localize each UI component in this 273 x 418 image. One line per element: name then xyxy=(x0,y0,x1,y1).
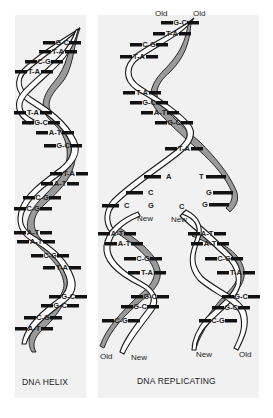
base-pair-label: G-C xyxy=(56,141,70,150)
base-pair-bar xyxy=(23,196,35,200)
base-pair-label: T-A xyxy=(63,169,76,178)
base-pair: A-T xyxy=(17,237,55,246)
base-pair-bar xyxy=(156,43,168,47)
base-pair-bar xyxy=(49,295,61,299)
base-pair-bar xyxy=(105,242,117,246)
base-pair-bar xyxy=(217,242,229,246)
base-pair-label: T-A xyxy=(141,268,154,277)
base-pair-bar xyxy=(131,295,143,299)
base-pair-label: G-C xyxy=(61,292,75,301)
base-pair-label: G-C xyxy=(53,301,67,310)
base-pair-label: T-A xyxy=(27,108,40,117)
base-pair-label: T-A xyxy=(136,88,149,97)
base-pair-label: G-C xyxy=(224,303,238,312)
base-label: A xyxy=(166,172,172,181)
base-pair-bar xyxy=(217,271,229,275)
base-pair-label: T-A xyxy=(52,47,65,56)
base-pair-bar xyxy=(48,121,60,125)
base-pair-bar xyxy=(231,257,243,261)
base-pair-bar xyxy=(15,70,27,74)
base-pair-bar xyxy=(205,257,217,261)
base-pair-bar xyxy=(212,306,224,310)
base-pair-label: A-T xyxy=(54,179,67,188)
base-pair-bar xyxy=(70,144,82,148)
base-pair-bar xyxy=(75,295,87,299)
base-label: C xyxy=(179,202,185,211)
base-pair-bar xyxy=(123,91,135,95)
base-pair-label: G-C xyxy=(167,118,181,127)
base-pair-bar xyxy=(51,60,63,64)
base-pair-bar xyxy=(161,21,173,25)
base-bar xyxy=(102,204,119,208)
strand-label-new: New xyxy=(131,353,147,362)
base-pair-bar xyxy=(57,254,69,258)
base-pair-label: C-G xyxy=(211,316,225,325)
base-pair-label: G-C xyxy=(173,18,187,27)
left-helix-base-pairs: G-CT-AC-GT-AT-AG-CA-TG-CT-AA-TC-GC-GA-TA… xyxy=(14,38,88,333)
strand-label-old: Old xyxy=(239,350,251,359)
base-pair-bar xyxy=(40,207,52,211)
unpaired-base: G xyxy=(148,201,154,210)
base-pair-label: C-G xyxy=(142,40,156,49)
base-pair-label: A-T xyxy=(154,108,167,117)
base-pair-label: T-A xyxy=(133,52,146,61)
base-pair-bar xyxy=(14,207,26,211)
base-pair-label: C-G xyxy=(26,204,40,213)
strand-label-old: Old xyxy=(100,352,112,361)
base-pair-bar xyxy=(17,240,29,244)
base-pair-label: A-T xyxy=(111,229,124,238)
base-pair-bar xyxy=(40,231,52,235)
base-pair-bar xyxy=(248,295,260,299)
base-pair-bar xyxy=(214,232,226,236)
base-pair-bar xyxy=(67,182,79,186)
base-pair-bar xyxy=(50,316,62,320)
base-pair-bar xyxy=(76,172,88,176)
unpaired-base: C xyxy=(179,202,185,211)
base-pair-label: A-T xyxy=(28,324,41,333)
base-pair-bar xyxy=(128,319,140,323)
base-pair-label: G-C xyxy=(142,98,156,107)
strand-label-old: Old xyxy=(193,9,205,18)
base-pair-label: T-A xyxy=(178,144,191,153)
base-pair-bar xyxy=(149,91,161,95)
dna-illustration: G-CT-AC-GT-AT-AG-CA-TG-CT-AA-TC-GC-GA-TA… xyxy=(0,0,273,418)
base-pair: G-C xyxy=(49,292,87,301)
base-pair-bar xyxy=(24,316,36,320)
base-pair: T-A xyxy=(43,263,81,272)
base-pair-bar xyxy=(36,131,48,135)
strand-label-new: New xyxy=(137,214,153,223)
base-pair-bar xyxy=(157,295,169,299)
base-pair-bar xyxy=(225,319,237,323)
parent-back-strand xyxy=(151,22,238,212)
base-pair-bar xyxy=(238,306,250,310)
base-pair-bar xyxy=(14,231,26,235)
base-pair-bar xyxy=(131,242,143,246)
base-pair-label: A-T xyxy=(30,237,43,246)
base-pair-bar xyxy=(187,21,199,25)
base-pair-bar xyxy=(124,257,136,261)
base-pair-bar xyxy=(150,257,162,261)
base-pair-bar xyxy=(49,196,61,200)
base-bar xyxy=(209,203,229,207)
base-pair-bar xyxy=(44,144,56,148)
caption-dna-helix: DNA HELIX xyxy=(22,377,68,387)
base-label: C xyxy=(148,188,154,197)
base-pair-bar xyxy=(65,50,77,54)
base-pair-bar xyxy=(154,271,166,275)
base-bar xyxy=(213,191,233,195)
base-pair-bar xyxy=(31,254,43,258)
base-pair-bar xyxy=(43,266,55,270)
base-pair-bar xyxy=(41,182,53,186)
base-bar xyxy=(144,175,161,179)
base-pair-bar xyxy=(41,304,53,308)
base-pair-bar xyxy=(15,327,27,331)
base-pair-bar xyxy=(22,121,34,125)
base-pair-bar xyxy=(156,101,168,105)
base-pair-label: A-T xyxy=(201,229,214,238)
base-label: G xyxy=(202,200,208,209)
base-pair-bar xyxy=(130,101,142,105)
base-pair-bar xyxy=(50,172,62,176)
unpaired-base: G xyxy=(206,188,233,197)
base-pair-label: C-G xyxy=(136,254,150,263)
base-pair-bar xyxy=(130,43,142,47)
